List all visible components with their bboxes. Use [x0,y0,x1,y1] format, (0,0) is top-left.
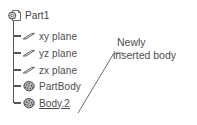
tree-node-body-2[interactable]: Body.2 [22,96,70,110]
plane-icon [22,64,36,77]
callout-annotation: Newly inserted body [117,36,176,62]
tree-node-root[interactable]: Part1 [8,8,49,22]
callout-line-1: Newly [117,36,176,49]
tree-node-xy-plane[interactable]: xy plane [22,29,77,43]
specification-tree: Part1 xy plane yz plane [0,0,110,125]
tree-node-zx-plane[interactable]: zx plane [22,63,77,77]
tree-node-label-selected: Body.2 [39,98,70,109]
tree-node-label-root: Part1 [25,10,49,21]
tree-node-yz-plane[interactable]: yz plane [22,46,77,60]
callout-line-2: inserted body [113,49,176,62]
solid-body-icon [22,80,36,93]
part-document-icon [8,9,22,22]
tree-node-label: xy plane [39,31,77,42]
tree-node-label: zx plane [39,65,77,76]
solid-body-icon [22,97,36,110]
tree-node-label: yz plane [39,48,77,59]
cad-spec-tree-figure: Part1 xy plane yz plane [0,0,197,125]
plane-icon [22,30,36,43]
tree-node-partbody[interactable]: PartBody [22,79,81,93]
tree-node-label: PartBody [39,81,81,92]
plane-icon [22,47,36,60]
